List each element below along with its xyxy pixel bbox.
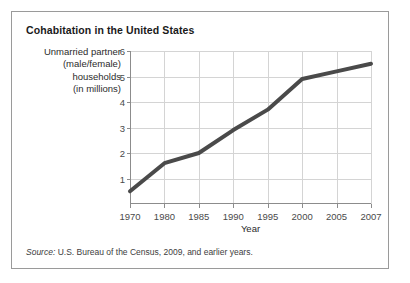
source-text: U.S. Bureau of the Census, 2009, and ear… <box>55 247 253 257</box>
x-tick-mark <box>337 204 338 208</box>
x-tick-mark <box>130 204 131 208</box>
data-series-line <box>130 51 371 204</box>
x-tick-mark <box>164 204 165 208</box>
source-note: Source: U.S. Bureau of the Census, 2009,… <box>26 247 253 257</box>
plot-area: 123456 19701980198519901995200020052007 <box>130 51 371 204</box>
y-tick-label: 2 <box>120 148 125 159</box>
x-tick-mark <box>268 204 269 208</box>
figure-panel: Cohabitation in the United States Unmarr… <box>11 11 389 269</box>
x-tick-label: 1990 <box>223 211 244 222</box>
x-tick-mark <box>233 204 234 208</box>
gridline-vertical <box>371 51 372 204</box>
x-tick-label: 1985 <box>188 211 209 222</box>
y-tick-label: 3 <box>120 122 125 133</box>
x-tick-mark <box>371 204 372 208</box>
x-tick-label: 2005 <box>326 211 347 222</box>
y-axis-label: Unmarried partner (male/female) househol… <box>26 46 121 96</box>
y-tick-label: 1 <box>120 173 125 184</box>
y-axis-label-line-2: (male/female) <box>26 58 121 70</box>
x-tick-mark <box>302 204 303 208</box>
source-label: Source: <box>26 247 55 257</box>
x-tick-label: 2000 <box>292 211 313 222</box>
x-tick-label: 1970 <box>119 211 140 222</box>
x-tick-label: 1995 <box>257 211 278 222</box>
y-axis-label-line-1: Unmarried partner <box>26 46 121 58</box>
y-tick-label: 6 <box>120 46 125 57</box>
x-tick-label: 2007 <box>360 211 381 222</box>
y-axis-label-line-3: households <box>26 71 121 83</box>
y-axis-label-line-4: (in millions) <box>26 83 121 95</box>
y-tick-label: 5 <box>120 71 125 82</box>
page-title: Cohabitation in the United States <box>26 24 194 36</box>
x-tick-label: 1980 <box>154 211 175 222</box>
x-tick-mark <box>199 204 200 208</box>
x-axis-label: Year <box>130 223 371 234</box>
y-tick-label: 4 <box>120 97 125 108</box>
